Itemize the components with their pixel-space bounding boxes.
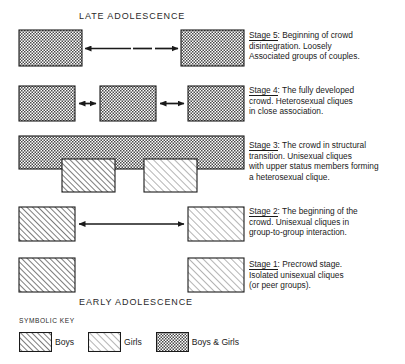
legend-label-girls: Girls xyxy=(124,337,142,347)
legend-label-boys-and-girls: Boys & Girls xyxy=(192,337,239,347)
legend-label-boys: Boys xyxy=(55,337,74,347)
stage4-label: Stage 4 xyxy=(249,85,278,96)
diagram-figure: LATE ADOLESCENCE EARLY ADOLESCENCE xyxy=(0,0,405,364)
stage1-row xyxy=(19,258,244,292)
stage4-clique-left xyxy=(19,86,75,121)
stage5-crowd-group-left xyxy=(19,30,82,66)
stage3-label: Stage 3 xyxy=(249,140,278,151)
girls-swatch-icon xyxy=(88,332,121,352)
stage2-label: Stage 2 xyxy=(249,206,278,217)
stage3-girls-clique xyxy=(144,159,197,192)
stage3-boys-clique xyxy=(62,159,115,192)
legend-item-boys-and-girls: Boys & Girls xyxy=(156,332,239,352)
stage4-clique-center xyxy=(100,86,156,121)
stage2-description: Stage 2: The beginning of the crowd. Uni… xyxy=(249,206,405,238)
stage4-row xyxy=(19,86,244,121)
stage4-clique-right xyxy=(188,86,244,121)
legend-item-girls: Girls xyxy=(88,332,142,352)
boys-and-girls-swatch-icon xyxy=(156,332,189,352)
legend: Boys Girls Boys & Girls xyxy=(19,332,253,352)
stage1-girls-clique xyxy=(188,258,244,292)
stage5-label: Stage 5 xyxy=(249,30,278,41)
stage1-description: Stage 1: Precrowd stage. Isolated unisex… xyxy=(249,259,405,291)
boys-swatch-icon xyxy=(19,332,52,352)
stage2-boys-clique xyxy=(19,207,75,241)
legend-item-boys: Boys xyxy=(19,332,74,352)
stage5-crowd-group-right xyxy=(181,30,244,66)
stage3-crowd-bar xyxy=(19,136,244,169)
stage5-description: Stage 5: Beginning of crowd disintegrati… xyxy=(249,30,405,62)
stage2-row xyxy=(19,207,244,241)
stage1-label: Stage 1 xyxy=(249,259,278,270)
stage1-boys-clique xyxy=(19,258,75,292)
legend-title: SYMBOLIC KEY xyxy=(19,317,75,324)
stage4-description: Stage 4: The fully developed crowd. Hete… xyxy=(249,85,405,117)
stage3-row xyxy=(19,136,244,192)
stage2-girls-clique xyxy=(188,207,244,241)
stage3-description: Stage 3: The crowd in structural transit… xyxy=(249,140,405,182)
stage5-row xyxy=(19,30,244,66)
